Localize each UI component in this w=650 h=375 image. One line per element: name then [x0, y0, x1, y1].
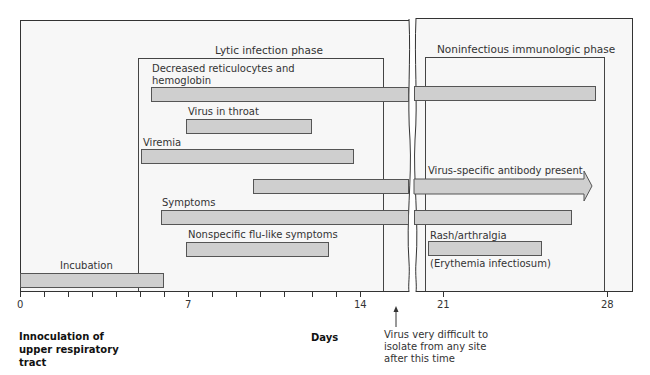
- isolation-note-line3: after this time: [384, 353, 488, 365]
- isolation-note-line2: isolate from any site: [384, 341, 488, 353]
- isolation-note-line1: Virus very difficult to: [384, 329, 488, 341]
- isolation-marker-arrow-icon: [0, 0, 650, 375]
- isolation-note: Virus very difficult to isolate from any…: [384, 329, 488, 365]
